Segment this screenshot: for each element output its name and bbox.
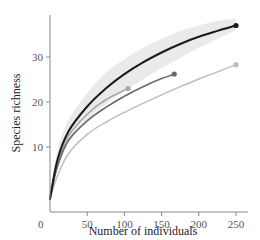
curve-4-light-gray-long-end-marker bbox=[233, 62, 238, 67]
y-ticks: 102030 bbox=[32, 51, 50, 153]
y-tick-label: 20 bbox=[32, 96, 44, 108]
y-axis-title: Species richness bbox=[9, 73, 23, 152]
y-tick-label: 30 bbox=[32, 51, 44, 63]
rarefaction-chart: 50100150200250 102030 0 Number of indivi… bbox=[0, 0, 260, 240]
y-tick-label: 10 bbox=[32, 141, 44, 153]
x-axis-title: Number of individuals bbox=[89, 224, 198, 238]
curve-4-light-gray-long-line bbox=[50, 65, 236, 199]
x-tick-label: 250 bbox=[228, 218, 245, 230]
curve-1-black-end-marker bbox=[233, 23, 238, 28]
curve-3-light-gray-short-end-marker bbox=[126, 86, 131, 91]
confidence-band bbox=[50, 19, 236, 199]
origin-label: 0 bbox=[38, 218, 44, 230]
curve-2-dark-gray-end-marker bbox=[172, 72, 177, 77]
axes: 50100150200250 102030 0 Number of indivi… bbox=[9, 15, 248, 238]
confidence-band-area bbox=[50, 19, 236, 199]
